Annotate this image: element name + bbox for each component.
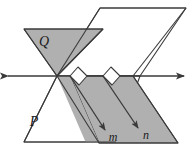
figure-canvas: Q P m n [0,0,192,154]
label-plane-p: P [29,114,39,129]
label-plane-q: Q [39,34,49,49]
label-line-m: m [109,130,118,144]
geometry-figure: Q P m n [0,0,192,154]
label-line-n: n [143,128,149,142]
